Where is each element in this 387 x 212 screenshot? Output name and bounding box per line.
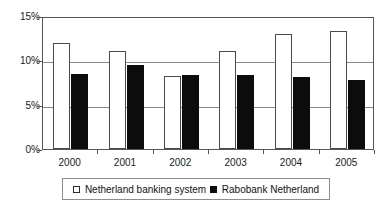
light-square-marker-icon: [73, 186, 80, 193]
bar: [330, 31, 347, 149]
bar: [237, 75, 254, 149]
gridline: [43, 62, 373, 63]
bar: [293, 77, 310, 149]
chart-legend: Netherland banking system Rabobank Nethe…: [62, 178, 330, 200]
bar: [109, 51, 126, 149]
bar: [275, 34, 292, 149]
bar: [164, 76, 181, 149]
x-axis-tick-label: 2003: [208, 157, 263, 169]
legend-label: Rabobank Netherland: [222, 184, 319, 195]
bar-chart: 0%5%10%15% 200020012002200320042005 Neth…: [0, 0, 387, 212]
legend-item-rabobank-netherland: Rabobank Netherland: [210, 184, 319, 195]
y-axis-tick: [37, 150, 42, 151]
bar: [53, 43, 70, 149]
legend-label: Netherland banking system: [85, 184, 206, 195]
x-axis-tick: [97, 150, 98, 154]
x-axis-tick: [153, 150, 154, 154]
x-axis-tick-label: 2004: [263, 157, 318, 169]
dark-square-marker-icon: [210, 186, 217, 193]
x-axis-tick-label: 2002: [153, 157, 208, 169]
bar: [71, 74, 88, 149]
legend-item-netherland-banking-system: Netherland banking system: [73, 184, 206, 195]
x-axis-tick: [319, 150, 320, 154]
plot-area: [42, 17, 374, 150]
bar: [348, 80, 365, 149]
x-axis-tick-label: 2005: [319, 157, 374, 169]
bar: [127, 65, 144, 149]
bar: [182, 75, 199, 149]
x-axis-tick-label: 2001: [97, 157, 152, 169]
bar: [219, 51, 236, 149]
x-axis-tick: [374, 150, 375, 154]
x-axis-tick-label: 2000: [42, 157, 97, 169]
x-axis-tick: [208, 150, 209, 154]
x-axis-tick: [263, 150, 264, 154]
gridline: [43, 107, 373, 108]
